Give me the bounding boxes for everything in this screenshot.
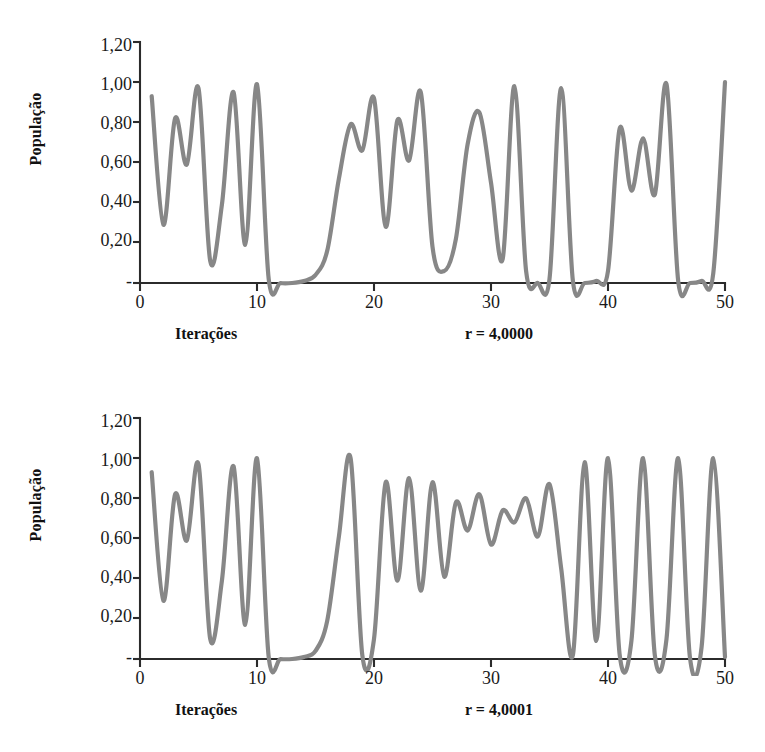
plot-area-2 <box>0 376 765 676</box>
x-tick-label: 10 <box>237 292 277 313</box>
data-line-series-1 <box>152 82 725 296</box>
parameter-label-2: r = 4,0001 <box>465 701 533 719</box>
x-tick-label: 0 <box>120 292 160 313</box>
x-axis-title-2: Iterações <box>175 701 237 719</box>
data-line-series-2 <box>152 455 725 676</box>
x-tick-label: 50 <box>705 668 745 689</box>
x-axis-title-1: Iterações <box>175 325 237 343</box>
x-tick-label: 0 <box>120 668 160 689</box>
x-tick-label: 30 <box>471 292 511 313</box>
chart-panel-1: População 1,20 1,00 0,80 0,60 0,40 0,20 … <box>0 0 765 376</box>
chart-panel-2: População 1,20 1,00 0,80 0,60 0,40 0,20 … <box>0 376 765 752</box>
plot-area-1 <box>0 0 765 300</box>
x-tick-label: 50 <box>705 292 745 313</box>
x-tick-label: 40 <box>588 668 628 689</box>
x-tick-label: 30 <box>471 668 511 689</box>
x-tick-label: 20 <box>354 292 394 313</box>
x-tick-label: 40 <box>588 292 628 313</box>
x-tick-label: 10 <box>237 668 277 689</box>
parameter-label-1: r = 4,0000 <box>465 325 533 343</box>
x-tick-label: 20 <box>354 668 394 689</box>
